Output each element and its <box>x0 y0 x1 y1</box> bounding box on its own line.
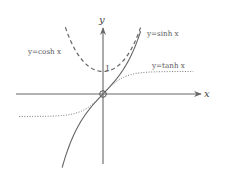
cosh-label: y=cosh x <box>27 47 61 56</box>
hyperbolic-functions-plot: x y 1 y=cosh x y=sinh x y=tanh x <box>0 0 228 173</box>
tanh-label: y=tanh x <box>151 61 185 70</box>
y-tick-one-label: 1 <box>105 64 110 73</box>
y-axis-label: y <box>98 14 105 25</box>
sinh-curve <box>62 31 140 167</box>
x-axis-label: x <box>204 88 210 99</box>
sinh-label: y=sinh x <box>146 29 179 38</box>
